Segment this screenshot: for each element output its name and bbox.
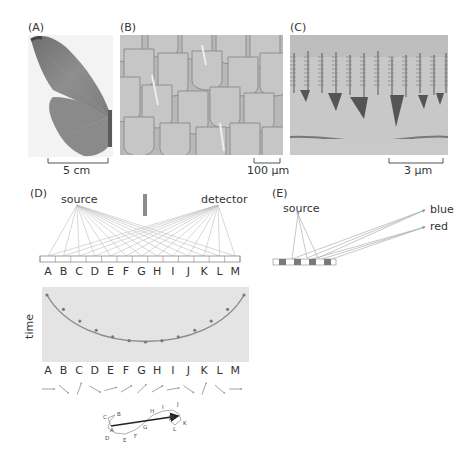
grating-diagram xyxy=(0,0,469,462)
diffraction-grating xyxy=(273,259,336,265)
